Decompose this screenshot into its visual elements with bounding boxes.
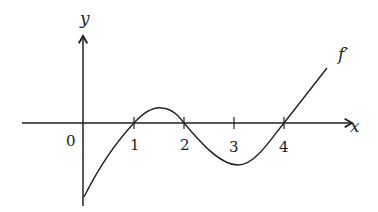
origin-label: 0 (66, 132, 76, 150)
tick-label-3: 3 (229, 138, 239, 156)
y-axis-label: y (79, 8, 90, 28)
graph: y x 0 1 2 3 4 f′ (0, 0, 378, 212)
x-axis-label: x (350, 116, 360, 136)
tick-label-1: 1 (130, 136, 140, 154)
curve-label: f′ (336, 44, 348, 64)
tick-label-4: 4 (279, 138, 289, 156)
f-prime-curve (84, 68, 327, 197)
tick-label-2: 2 (180, 136, 190, 154)
